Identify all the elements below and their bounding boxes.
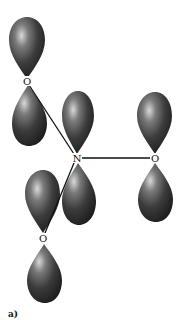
- o1-upper-lobe: [9, 17, 45, 79]
- o2-upper-lobe: [137, 92, 172, 154]
- figure-caption: a): [8, 309, 18, 319]
- atom-label-n: N: [73, 153, 82, 164]
- atom-label-o3: O: [39, 233, 47, 244]
- n-lower-lobe: [62, 163, 96, 225]
- o3-lower-lobe: [27, 244, 62, 303]
- o2-lower-lobe: [138, 163, 173, 222]
- atom-label-o2: O: [151, 153, 159, 164]
- n-upper-lobe: [62, 91, 94, 154]
- atom-label-o1: O: [23, 76, 31, 87]
- o1-lower-lobe: [12, 85, 47, 146]
- p-orbital-diagram: O N O O a): [0, 0, 185, 320]
- o3-upper-lobe: [25, 170, 60, 233]
